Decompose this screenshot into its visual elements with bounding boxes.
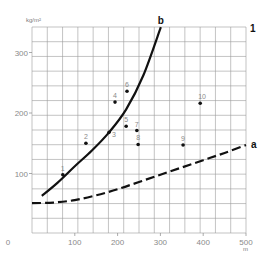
x-tick-label: 0	[6, 238, 11, 247]
data-point-label: 10	[198, 93, 206, 100]
y-tick-label: 200	[15, 109, 29, 118]
data-point	[135, 129, 139, 133]
y-tick-label: 100	[15, 170, 29, 179]
data-point	[125, 89, 129, 93]
x-tick-label: 400	[197, 238, 211, 247]
data-point	[198, 102, 202, 106]
data-point-label: 2	[84, 133, 88, 140]
data-point-label: 5	[124, 116, 128, 123]
axes: 0100200300400500100200300	[6, 49, 253, 248]
data-point	[181, 143, 185, 147]
data-point-label: 3	[112, 131, 116, 138]
data-point-label: 1	[61, 165, 65, 172]
data-point	[107, 131, 111, 135]
data-point-label: 9	[181, 135, 185, 142]
data-point-label: 4	[113, 92, 117, 99]
panel-label: 1	[250, 23, 256, 34]
data-point	[136, 143, 140, 147]
y-tick-label: 300	[15, 49, 29, 58]
data-point	[124, 125, 128, 129]
x-tick-label: 100	[68, 238, 82, 247]
curve-label-b: b	[158, 15, 164, 26]
x-tick-label: 200	[111, 238, 125, 247]
curve-b	[42, 27, 161, 196]
curve-label-a: a	[251, 139, 257, 150]
data-point	[61, 173, 65, 177]
curves: ba	[32, 15, 257, 203]
x-axis-unit-label: m	[243, 246, 248, 252]
data-point-label: 8	[136, 134, 140, 141]
y-axis-label: kg/m²	[26, 17, 41, 23]
data-point	[113, 100, 117, 104]
data-point	[84, 141, 88, 145]
data-point-label: 7	[135, 121, 139, 128]
data-point-label: 6	[125, 81, 129, 88]
x-tick-label: 300	[154, 238, 168, 247]
chart: 0100200300400500100200300 ba 12345678910…	[0, 0, 265, 261]
